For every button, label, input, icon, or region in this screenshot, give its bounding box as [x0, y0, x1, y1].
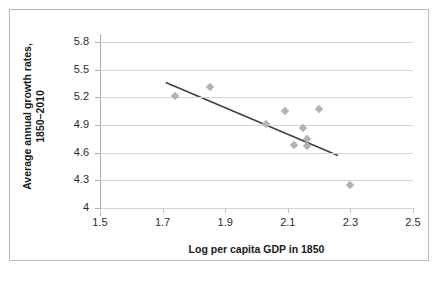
y-axis-tick — [95, 42, 100, 43]
x-axis-tick — [163, 208, 164, 213]
x-axis-label: 1.7 — [141, 216, 185, 228]
y-axis-tick — [95, 125, 100, 126]
gridline-y — [100, 180, 413, 181]
y-axis-label: 4.9 — [47, 118, 89, 130]
x-axis-tick — [413, 208, 414, 213]
y-axis-label: 5.2 — [47, 90, 89, 102]
x-axis-label: 1.5 — [78, 216, 122, 228]
x-axis-tick — [350, 208, 351, 213]
y-axis-title: Average annual growth rates, 1850–2010 — [21, 22, 46, 212]
plot-area — [100, 42, 413, 208]
gridline-y — [100, 125, 413, 126]
y-axis-tick — [95, 153, 100, 154]
x-axis-label: 2.3 — [328, 216, 372, 228]
gridline-y — [100, 42, 413, 43]
trendline — [166, 83, 338, 156]
y-axis-tick — [95, 180, 100, 181]
y-axis-tick — [95, 97, 100, 98]
x-axis-title: Log per capita GDP in 1850 — [100, 243, 413, 255]
gridline-y — [100, 70, 413, 71]
gridline-y — [100, 97, 413, 98]
gridline-y — [100, 153, 413, 154]
y-axis-label: 5.5 — [47, 63, 89, 75]
x-axis-tick — [225, 208, 226, 213]
y-axis-title-line2: 1850–2010 — [33, 22, 46, 212]
y-axis-label: 5.8 — [47, 35, 89, 47]
x-axis-label: 1.9 — [203, 216, 247, 228]
y-axis-title-line1: Average annual growth rates, — [21, 22, 34, 212]
x-axis-label: 2.1 — [266, 216, 310, 228]
x-axis-label: 2.5 — [391, 216, 435, 228]
y-axis-tick — [95, 70, 100, 71]
y-axis-label: 4.6 — [47, 146, 89, 158]
chart-figure: Average annual growth rates, 1850–2010 L… — [0, 0, 444, 289]
gridline-y — [100, 208, 413, 209]
y-axis-label: 4.3 — [47, 173, 89, 185]
y-axis-label: 4 — [47, 201, 89, 213]
x-axis-tick — [288, 208, 289, 213]
x-axis-tick — [100, 208, 101, 213]
